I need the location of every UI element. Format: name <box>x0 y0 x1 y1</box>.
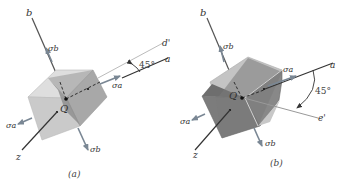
sigma-a-arrow-left-a <box>18 118 32 124</box>
angle-label-a: 45° <box>139 60 155 70</box>
caption-b: (b) <box>270 158 283 168</box>
sigma-b-label-upper-a: σb <box>48 44 59 53</box>
sigma-a-label-right-b: σa <box>283 65 293 74</box>
panel-a: b a z d' 45° σb σb σa σa Q (a) <box>6 7 170 179</box>
sigma-a-arrow-left-b <box>192 114 205 120</box>
label-b-b: b <box>200 7 206 18</box>
label-a-b: a <box>330 60 335 70</box>
label-e-prime: e' <box>318 113 326 123</box>
label-z-b: z <box>192 150 198 160</box>
label-a-a: a <box>165 54 170 64</box>
origin-label-a: Q <box>60 103 68 114</box>
diagram-canvas: b a z d' 45° σb σb σa σa Q (a) <box>0 0 338 183</box>
sigma-b-label-lower-b: σb <box>265 139 276 148</box>
origin-point-a <box>64 97 68 101</box>
sigma-b-label-upper-b: σb <box>223 42 234 51</box>
sigma-a-label-left-a: σa <box>6 121 16 130</box>
panel-b: b a z e' 45° σb σb σa σa Q (b) <box>180 7 335 168</box>
sigma-a-label-right-a: σa <box>112 81 122 90</box>
sigma-b-arrow-lower-b <box>254 128 262 146</box>
label-z-a: z <box>15 152 21 162</box>
label-d-prime: d' <box>162 38 170 48</box>
angle-label-b: 45° <box>315 86 331 96</box>
origin-point-b <box>240 96 244 100</box>
origin-label-b: Q <box>229 90 237 101</box>
sigma-b-arrow-lower-a <box>78 128 88 150</box>
label-b-a: b <box>26 7 32 18</box>
sigma-b-label-lower-a: σb <box>90 145 101 154</box>
caption-a: (a) <box>68 169 81 179</box>
sigma-a-label-left-b: σa <box>180 117 190 126</box>
